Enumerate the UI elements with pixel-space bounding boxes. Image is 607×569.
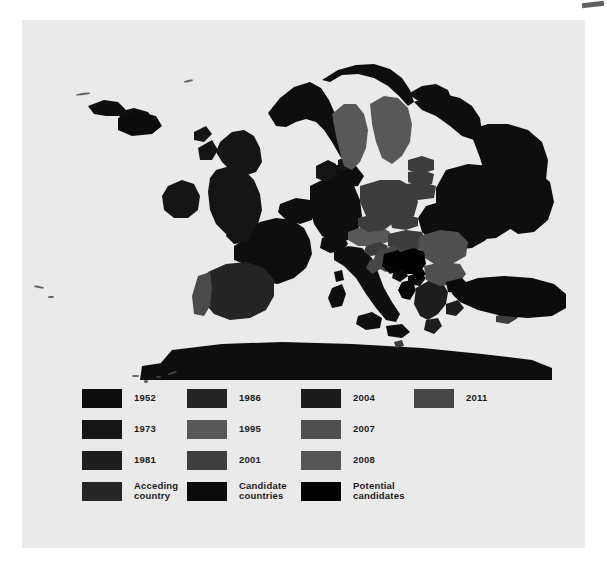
legend-swatch-2004: [301, 389, 341, 408]
legend-column-3: 2004 2007 2008 Potential candidates: [301, 388, 413, 501]
legend-label-2008: 2008: [353, 455, 375, 466]
legend-swatch-2011: [414, 389, 454, 408]
legend-swatch-1973: [82, 420, 122, 439]
legend-swatch-1981: [82, 451, 122, 470]
scan-corner-mark: [582, 1, 604, 8]
map-region-1986-portugal: [192, 272, 212, 316]
legend: 1952 1973 1981 Acceding country 1986: [82, 388, 582, 536]
legend-swatch-2008: [301, 451, 341, 470]
legend-swatch-2007: [301, 420, 341, 439]
europe-map: [22, 20, 585, 380]
legend-swatch-2001: [187, 451, 227, 470]
scan-speck: [144, 380, 148, 383]
legend-label-2004: 2004: [353, 393, 375, 404]
legend-item-2004[interactable]: 2004: [301, 388, 413, 408]
legend-label-acceding-country: Acceding country: [134, 481, 178, 502]
legend-label-2011: 2011: [466, 393, 487, 404]
legend-column-1: 1952 1973 1981 Acceding country: [82, 388, 194, 501]
legend-column-2: 1986 1995 2001 Candidate countries: [187, 388, 299, 501]
scan-speck: [156, 376, 161, 378]
legend-swatch-potential-candidates: [301, 482, 341, 501]
legend-label-1981: 1981: [134, 455, 156, 466]
legend-swatch-acceding-country: [82, 482, 122, 501]
legend-item-1973[interactable]: 1973: [82, 419, 194, 439]
legend-item-2008[interactable]: 2008: [301, 450, 413, 470]
legend-label-potential-candidates: Potential candidates: [353, 481, 405, 502]
legend-item-acceding-country[interactable]: Acceding country: [82, 481, 194, 501]
legend-swatch-1952: [82, 389, 122, 408]
legend-item-1986[interactable]: 1986: [187, 388, 299, 408]
legend-label-2001: 2001: [239, 455, 261, 466]
legend-item-1952[interactable]: 1952: [82, 388, 194, 408]
legend-label-1952: 1952: [134, 393, 156, 404]
legend-label-2007: 2007: [353, 424, 375, 435]
legend-label-1986: 1986: [239, 393, 261, 404]
legend-item-2011[interactable]: 2011: [414, 388, 526, 408]
map-region-1986-spain: [202, 262, 274, 320]
legend-swatch-1995: [187, 420, 227, 439]
legend-item-2001[interactable]: 2001: [187, 450, 299, 470]
legend-label-candidate-countries: Candidate countries: [239, 481, 287, 502]
legend-swatch-candidate-countries: [187, 482, 227, 501]
scan-speck: [48, 296, 54, 298]
legend-item-potential-candidates[interactable]: Potential candidates: [301, 481, 413, 501]
legend-label-1973: 1973: [134, 424, 156, 435]
scan-speck: [132, 375, 139, 377]
legend-label-1995: 1995: [239, 424, 261, 435]
legend-column-4: 2011: [414, 388, 526, 419]
legend-item-2007[interactable]: 2007: [301, 419, 413, 439]
figure-panel: 1952 1973 1981 Acceding country 1986: [22, 20, 585, 548]
map-area: [22, 20, 585, 380]
legend-item-1981[interactable]: 1981: [82, 450, 194, 470]
legend-item-candidate-countries[interactable]: Candidate countries: [187, 481, 299, 501]
legend-swatch-1986: [187, 389, 227, 408]
legend-item-1995[interactable]: 1995: [187, 419, 299, 439]
